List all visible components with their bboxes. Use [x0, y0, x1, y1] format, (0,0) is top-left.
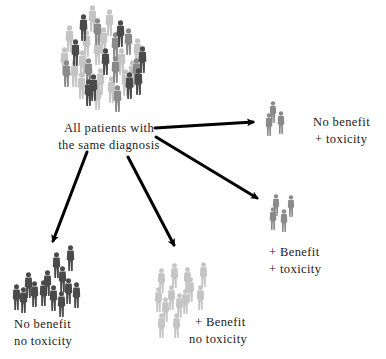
no-benefit-no-toxicity-group — [13, 245, 80, 317]
all-patients-label: All patients with the same diagnosis — [38, 120, 180, 154]
no-benefit-toxicity-group — [266, 101, 285, 136]
no-benefit-toxicity-label: No benefit + toxicity — [313, 114, 370, 148]
arrow-to-benefit-no-toxicity — [128, 157, 174, 245]
benefit-toxicity-group — [270, 194, 294, 232]
no-benefit-no-toxicity-label: No benefit no toxicity — [14, 316, 72, 350]
diagram-canvas — [0, 0, 386, 359]
benefit-toxicity-label: + Benefit + toxicity — [269, 244, 321, 278]
all-patients-crowd — [61, 5, 147, 112]
benefit-no-toxicity-label: + Benefit no toxicity — [189, 314, 247, 348]
arrow-to-no-benefit-no-toxicity — [53, 152, 87, 241]
